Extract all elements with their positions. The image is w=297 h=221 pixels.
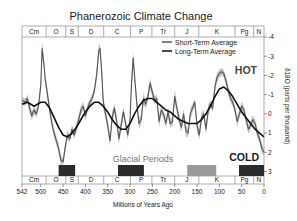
climate-chart: Phanerozoic Climate Change CmOSDCPTrJKPg… xyxy=(0,0,297,221)
hot-label: HOT xyxy=(235,64,258,76)
period-label: J xyxy=(185,176,188,183)
period-label: D xyxy=(89,28,94,35)
glacial-bar xyxy=(118,165,144,176)
y-tick-label: 1 xyxy=(268,129,272,136)
period-label: Tr xyxy=(160,176,167,183)
glacial-periods-label: Glacial Periods xyxy=(113,154,174,164)
x-tick-label: 500 xyxy=(35,188,46,195)
period-label: Pg xyxy=(240,28,248,36)
glacial-bar xyxy=(59,165,76,176)
period-label: N xyxy=(257,28,262,35)
x-tick-label: 200 xyxy=(169,188,180,195)
glacial-bar xyxy=(187,165,216,176)
y-axis-label: δ18O (parts per thousand) xyxy=(283,68,291,144)
period-label: S xyxy=(70,176,75,183)
period-label: S xyxy=(70,28,75,35)
y-tick-label: -1 xyxy=(268,91,274,98)
y-axis: -4-3-2-10123 xyxy=(264,33,274,175)
y-tick-label: -2 xyxy=(268,72,274,79)
chart-title: Phanerozoic Climate Change xyxy=(69,10,212,22)
x-tick-label: 300 xyxy=(125,188,136,195)
period-label: P xyxy=(139,28,143,35)
x-tick-label: 150 xyxy=(192,188,203,195)
period-label: Pg xyxy=(240,176,248,184)
period-label: K xyxy=(215,176,220,183)
period-label: C xyxy=(115,176,120,183)
glacial-period-bars xyxy=(59,165,264,176)
x-tick-label: 400 xyxy=(80,188,91,195)
period-label: J xyxy=(185,28,188,35)
glacial-bar xyxy=(239,165,264,176)
y-tick-label: -4 xyxy=(268,33,274,40)
x-axis: 542500450400350300250200150100500 xyxy=(17,184,267,195)
period-label: Cm xyxy=(29,28,39,35)
period-label: C xyxy=(115,28,120,35)
x-axis-label: Millions of Years Ago xyxy=(113,201,173,209)
legend-long-term: Long-Term Average xyxy=(175,48,236,56)
period-strip-top: CmOSDCPTrJKPgN xyxy=(29,26,262,37)
cold-label: COLD xyxy=(229,151,259,163)
x-tick-label: 250 xyxy=(147,188,158,195)
x-tick-label: 50 xyxy=(238,188,246,195)
period-label: Cm xyxy=(29,176,39,183)
period-strip-bottom: CmOSDCPTrJKPgN xyxy=(29,176,262,184)
period-label: P xyxy=(139,176,143,183)
y-tick-label: 2 xyxy=(268,149,272,156)
x-tick-label: 542 xyxy=(17,188,28,195)
period-label: O xyxy=(53,176,58,183)
period-label: Tr xyxy=(160,28,167,35)
period-label: D xyxy=(89,176,94,183)
legend-short-term: Short-Term Average xyxy=(175,39,237,47)
x-tick-label: 0 xyxy=(262,188,266,195)
period-label: O xyxy=(53,28,58,35)
period-label: N xyxy=(257,176,262,183)
x-tick-label: 100 xyxy=(214,188,225,195)
x-tick-label: 350 xyxy=(102,188,113,195)
y-tick-label: 3 xyxy=(268,168,272,175)
long-term-line xyxy=(22,87,264,137)
y-tick-label: -3 xyxy=(268,53,274,60)
legend: Short-Term Average Long-Term Average xyxy=(162,39,237,56)
y-tick-label: 0 xyxy=(268,110,272,117)
x-tick-label: 450 xyxy=(58,188,69,195)
period-label: K xyxy=(215,28,220,35)
